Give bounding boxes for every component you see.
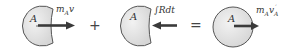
- impulse-arrow-icon: [152, 22, 177, 30]
- term-initial-momentum: A mAv: [22, 4, 75, 46]
- plus-operator: +: [89, 17, 101, 33]
- body-label-a: A: [29, 13, 37, 24]
- body-label-a: A: [129, 11, 137, 22]
- impulse-momentum-diagram: A mAv + A ∫Rdt = A mAvA′: [0, 0, 292, 53]
- term-impulse: A ∫Rdt: [120, 5, 177, 46]
- equals-operator: =: [190, 17, 202, 33]
- momentum-label: mAv: [56, 4, 74, 16]
- final-momentum-label: mAvA′: [256, 3, 279, 17]
- body-label-a: A: [227, 13, 235, 24]
- term-final-momentum: A mAvA′: [213, 3, 279, 47]
- impulse-label: ∫Rdt: [154, 5, 175, 15]
